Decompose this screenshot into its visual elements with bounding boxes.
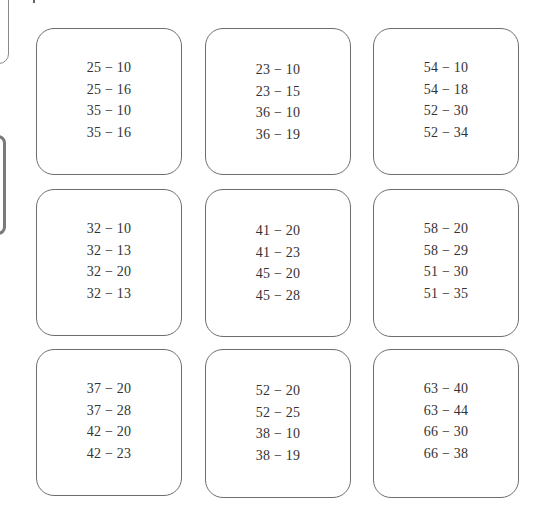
problem-list: 32 − 10 32 − 13 32 − 20 32 − 13	[37, 218, 181, 304]
problem: 32 − 13	[37, 240, 181, 262]
problem-list: 52 − 20 52 − 25 38 − 10 38 − 19	[206, 380, 350, 466]
problem-card-4: 32 − 10 32 − 13 32 − 20 32 − 13	[36, 189, 182, 336]
problem-list: 37 − 20 37 − 28 42 − 20 42 − 23	[37, 378, 181, 464]
problem: 38 − 10	[206, 423, 350, 445]
cropped-box-top-left	[0, 0, 9, 64]
problem: 54 − 10	[374, 57, 518, 79]
problem: 63 − 44	[374, 400, 518, 422]
problem: 63 − 40	[374, 378, 518, 400]
problem: 42 − 23	[37, 443, 181, 465]
problem: 45 − 28	[206, 285, 350, 307]
problem: 52 − 34	[374, 122, 518, 144]
problem: 32 − 13	[37, 283, 181, 305]
problem: 51 − 35	[374, 283, 518, 305]
cropped-text-mark	[33, 0, 35, 3]
problem: 25 − 16	[37, 79, 181, 101]
problem: 52 − 30	[374, 100, 518, 122]
problem-list: 25 − 10 25 − 16 35 − 10 35 − 16	[37, 57, 181, 143]
problem: 23 − 10	[206, 59, 350, 81]
problem: 36 − 10	[206, 102, 350, 124]
problem: 66 − 30	[374, 421, 518, 443]
problem-card-7: 37 − 20 37 − 28 42 − 20 42 − 23	[36, 349, 182, 496]
problem: 35 − 10	[37, 100, 181, 122]
problem-card-2: 23 − 10 23 − 15 36 − 10 36 − 19	[205, 28, 351, 175]
problem-list: 63 − 40 63 − 44 66 − 30 66 − 38	[374, 378, 518, 464]
problem: 52 − 20	[206, 380, 350, 402]
problem: 51 − 30	[374, 261, 518, 283]
problem-card-5: 41 − 20 41 − 23 45 − 20 45 − 28	[205, 189, 351, 337]
problem: 36 − 19	[206, 124, 350, 146]
problem-card-8: 52 − 20 52 − 25 38 − 10 38 − 19	[205, 349, 351, 498]
problem-list: 54 − 10 54 − 18 52 − 30 52 − 34	[374, 57, 518, 143]
cropped-box-mid-left	[0, 135, 6, 235]
problem: 52 − 25	[206, 402, 350, 424]
problem: 58 − 29	[374, 240, 518, 262]
problem: 45 − 20	[206, 263, 350, 285]
problem: 41 − 20	[206, 220, 350, 242]
problem: 23 − 15	[206, 81, 350, 103]
problem: 32 − 10	[37, 218, 181, 240]
problem-card-9: 63 − 40 63 − 44 66 − 30 66 − 38	[373, 349, 519, 498]
problem: 37 − 28	[37, 400, 181, 422]
problem-list: 23 − 10 23 − 15 36 − 10 36 − 19	[206, 59, 350, 145]
problem: 37 − 20	[37, 378, 181, 400]
problem: 66 − 38	[374, 443, 518, 465]
problem: 35 − 16	[37, 122, 181, 144]
problem: 41 − 23	[206, 242, 350, 264]
problem: 38 − 19	[206, 445, 350, 467]
problem: 58 − 20	[374, 218, 518, 240]
problem: 54 − 18	[374, 79, 518, 101]
problem: 32 − 20	[37, 261, 181, 283]
problem-card-3: 54 − 10 54 − 18 52 − 30 52 − 34	[373, 28, 519, 175]
problem-card-6: 58 − 20 58 − 29 51 − 30 51 − 35	[373, 189, 519, 337]
problem: 25 − 10	[37, 57, 181, 79]
problem: 42 − 20	[37, 421, 181, 443]
problem-card-1: 25 − 10 25 − 16 35 − 10 35 − 16	[36, 28, 182, 175]
problem-list: 58 − 20 58 − 29 51 − 30 51 − 35	[374, 218, 518, 304]
problem-list: 41 − 20 41 − 23 45 − 20 45 − 28	[206, 220, 350, 306]
